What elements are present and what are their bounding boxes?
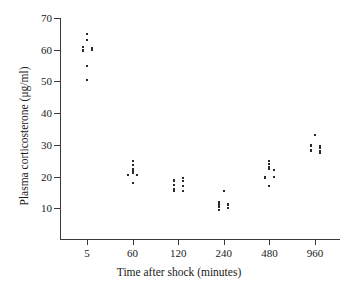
data-point (136, 174, 138, 176)
data-point (132, 172, 134, 174)
x-tick-label: 60 (127, 248, 138, 259)
data-point (86, 33, 88, 35)
y-tick-label: 70 (41, 13, 52, 24)
y-tick-mark (54, 50, 60, 51)
data-point (86, 65, 88, 67)
data-point (182, 190, 184, 192)
data-point (319, 147, 321, 149)
data-point (86, 79, 88, 81)
data-point (86, 39, 88, 41)
y-tick-label: 50 (41, 76, 52, 87)
data-point (310, 150, 312, 152)
data-point (82, 46, 84, 48)
y-tick-mark (54, 145, 60, 146)
x-tick-mark (269, 239, 270, 245)
data-point (310, 145, 312, 147)
data-point (132, 160, 134, 162)
data-point (268, 168, 270, 170)
y-tick-mark (54, 208, 60, 209)
x-tick-label: 5 (84, 248, 90, 259)
x-tick-label: 120 (170, 248, 187, 259)
data-point (182, 177, 184, 179)
x-axis-title: Time after shock (minutes) (0, 266, 358, 278)
data-point (268, 185, 270, 187)
data-point (91, 49, 93, 51)
x-tick-mark (178, 239, 179, 245)
y-tick-label: 30 (41, 139, 52, 150)
y-tick-label: 10 (41, 203, 52, 214)
data-point (227, 207, 229, 209)
data-point (268, 160, 270, 162)
y-tick-mark (54, 81, 60, 82)
data-point (218, 206, 220, 208)
y-tick-mark (54, 18, 60, 19)
x-tick-mark (315, 239, 316, 245)
y-axis-title: Plasma corticosterone (μg/ml) (18, 25, 36, 247)
x-tick-label: 960 (307, 248, 324, 259)
data-point (173, 190, 175, 192)
data-point (268, 163, 270, 165)
y-tick-mark (54, 113, 60, 114)
data-point (227, 204, 229, 206)
y-tick-label: 40 (41, 108, 52, 119)
x-tick-label: 240 (216, 248, 233, 259)
x-tick-mark (133, 239, 134, 245)
y-tick-mark (54, 177, 60, 178)
data-point (173, 184, 175, 186)
data-point (182, 180, 184, 182)
y-tick-label: 20 (41, 171, 52, 182)
data-point (273, 169, 275, 171)
data-point (273, 176, 275, 178)
plot-area: 10203040506070 (60, 18, 332, 240)
data-point (264, 177, 266, 179)
data-point (132, 182, 134, 184)
data-point (82, 50, 84, 52)
data-point (127, 174, 129, 176)
x-tick-mark (87, 239, 88, 245)
data-point (218, 209, 220, 211)
data-point (173, 180, 175, 182)
data-point (319, 152, 321, 154)
data-point (223, 190, 225, 192)
scatter-plot-figure: 10203040506070 560120240480960 Plasma co… (0, 0, 358, 293)
x-tick-mark (224, 239, 225, 245)
y-tick-label: 60 (41, 44, 52, 55)
data-point (132, 164, 134, 166)
x-tick-label: 480 (261, 248, 278, 259)
data-point (182, 185, 184, 187)
data-point (314, 134, 316, 136)
